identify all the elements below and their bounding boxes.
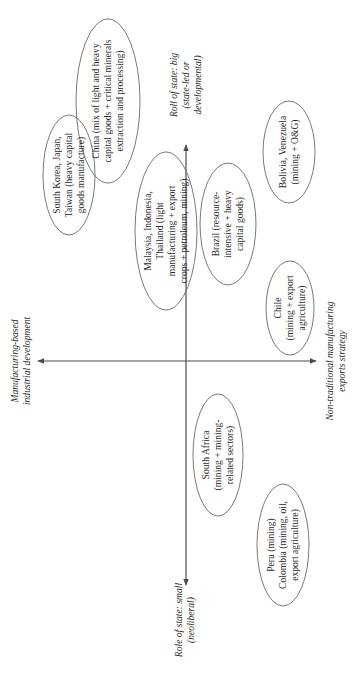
- svg-text:extraction and processing): extraction and processing): [114, 50, 126, 151]
- svg-text:South Korea, Japan,: South Korea, Japan,: [51, 136, 62, 213]
- svg-text:agriculture): agriculture): [296, 286, 308, 331]
- svg-text:(mining + mining-: (mining + mining-: [212, 420, 224, 491]
- svg-text:Manufacturing-based: Manufacturing-based: [9, 319, 20, 403]
- svg-text:(mining + O&G): (mining + O&G): [289, 119, 301, 184]
- svg-text:Bolivia, Venezuela: Bolivia, Venezuela: [277, 115, 288, 188]
- svg-text:Malaysia, Indonesia,: Malaysia, Indonesia,: [142, 191, 153, 271]
- svg-text:Non-traditional manufacturing: Non-traditional manufacturing: [324, 301, 335, 421]
- label-chile: Chile (mining + export agriculture): [272, 275, 308, 340]
- svg-text:Peru (mining): Peru (mining): [265, 518, 277, 572]
- axis-label-right: Non-traditional manufacturing exports st…: [324, 301, 347, 421]
- quadrant-diagram: China (mix of light and heavy capital go…: [0, 0, 360, 686]
- label-malaysia: Malaysia, Indonesia, Thailand (light man…: [142, 178, 190, 283]
- svg-text:(mining + export: (mining + export: [284, 275, 296, 340]
- svg-text:Chile: Chile: [272, 298, 283, 319]
- svg-text:Taiwan (heavy capital: Taiwan (heavy capital: [63, 132, 75, 217]
- svg-text:(state-led or: (state-led or: [180, 61, 192, 108]
- svg-text:(neoliberal): (neoliberal): [185, 597, 197, 643]
- svg-text:developmental): developmental): [192, 55, 204, 114]
- label-brazil: Brazil (resource- intensive + heavy capi…: [210, 190, 246, 258]
- label-peru-colombia: Peru (mining) Colombia (mining, oil, exp…: [265, 501, 301, 589]
- svg-text:capital goods): capital goods): [234, 197, 246, 251]
- svg-text:Roll of state: big: Roll of state: big: [168, 53, 179, 118]
- svg-text:manufacturing + export: manufacturing + export: [166, 185, 177, 276]
- label-south-africa: South Africa (mining + mining- related s…: [200, 420, 236, 491]
- svg-text:export agriculture): export agriculture): [289, 509, 301, 581]
- svg-text:capital goods + critical miner: capital goods + critical minerals: [102, 39, 113, 162]
- svg-text:crops + petroleum, mining): crops + petroleum, mining): [178, 178, 190, 283]
- axis-label-top: Roll of state: big (state-led or develop…: [168, 53, 204, 118]
- svg-text:exports strategy: exports strategy: [336, 329, 347, 391]
- svg-text:industrial development: industrial development: [21, 317, 32, 406]
- svg-text:Brazil (resource-: Brazil (resource-: [210, 192, 222, 257]
- svg-text:Colombia (mining, oil,: Colombia (mining, oil,: [277, 501, 289, 589]
- label-south-korea: South Korea, Japan, Taiwan (heavy capita…: [51, 132, 87, 217]
- label-bolivia: Bolivia, Venezuela (mining + O&G): [277, 115, 301, 188]
- svg-text:China (mix of light and heavy: China (mix of light and heavy: [90, 43, 102, 159]
- svg-text:Thailand (light: Thailand (light: [154, 202, 166, 260]
- axis-label-bottom: Role of state: small (neoliberal): [173, 582, 197, 658]
- axis-label-left: Manufacturing-based industrial developme…: [9, 317, 32, 406]
- label-china: China (mix of light and heavy capital go…: [90, 39, 126, 162]
- svg-text:goods manufacture): goods manufacture): [75, 137, 87, 213]
- svg-text:South Africa: South Africa: [200, 430, 211, 480]
- svg-text:intensive + heavy: intensive + heavy: [222, 190, 233, 258]
- svg-text:related sectors): related sectors): [224, 426, 236, 484]
- svg-text:Role of state: small: Role of state: small: [173, 582, 184, 658]
